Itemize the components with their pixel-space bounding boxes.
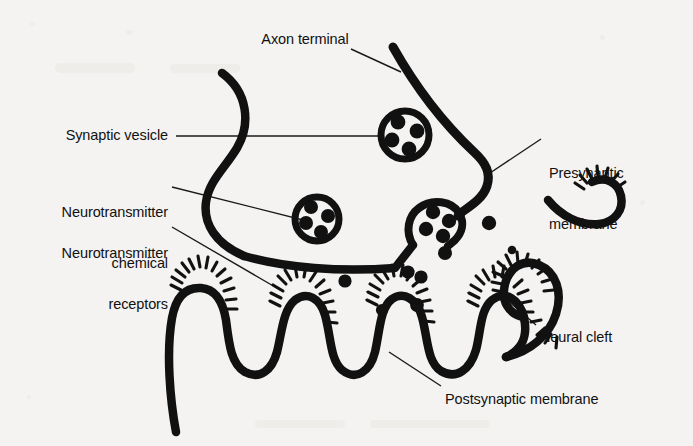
neurotransmitter-dot	[508, 246, 517, 255]
synaptic-vesicle-docked	[419, 205, 456, 243]
label-presynaptic-membrane: Presynaptic membrane	[549, 131, 689, 267]
synaptic-vesicle-middle	[295, 197, 339, 241]
label-postsynaptic-membrane: Postsynaptic membrane	[445, 391, 675, 408]
label-presynaptic-membrane-line2: membrane	[549, 216, 689, 233]
neurotransmitter-granule	[436, 229, 450, 243]
neurotransmitter-granule	[321, 209, 335, 223]
label-neurotransmitter-receptors: Neurotransmitter receptors	[8, 211, 168, 347]
synaptic-vesicle-upper	[381, 111, 429, 159]
axon-terminal-left-wall	[206, 73, 246, 256]
neurotransmitter-granule	[426, 205, 440, 219]
postsynaptic-membrane-outline	[169, 288, 525, 432]
neurotransmitter-granule	[402, 142, 417, 157]
leader-presynaptic-membrane	[487, 139, 541, 175]
neurotransmitter-dot	[338, 274, 351, 287]
neurotransmitter-dot	[482, 216, 496, 230]
axon-terminal-right-wall	[393, 47, 488, 216]
neurotransmitter-granule	[391, 115, 406, 130]
neurotransmitter-granule	[385, 133, 400, 148]
presynaptic-face	[244, 245, 413, 270]
neurotransmitter-granule	[304, 200, 318, 214]
neurotransmitter-granule	[314, 225, 328, 239]
neurotransmitter-granule	[410, 124, 425, 139]
neurotransmitter-granule	[442, 214, 456, 228]
label-neurotransmitter-receptors-line1: Neurotransmitter	[8, 245, 168, 262]
neurotransmitter-granule	[299, 216, 313, 230]
label-neurotransmitter-receptors-line2: receptors	[8, 296, 168, 313]
neurotransmitter-granule	[419, 222, 433, 236]
label-presynaptic-membrane-line1: Presynaptic	[549, 165, 689, 182]
label-neural-cleft: Neural cleft	[540, 329, 680, 346]
label-axon-terminal: Axon terminal	[240, 31, 370, 48]
leader-neurotransmitter-chemical	[172, 187, 311, 222]
figure-canvas: Axon terminal Synaptic vesicle Neurotran…	[0, 0, 693, 446]
label-synaptic-vesicle: Synaptic vesicle	[18, 127, 168, 144]
neurotransmitter-dot	[438, 246, 452, 260]
